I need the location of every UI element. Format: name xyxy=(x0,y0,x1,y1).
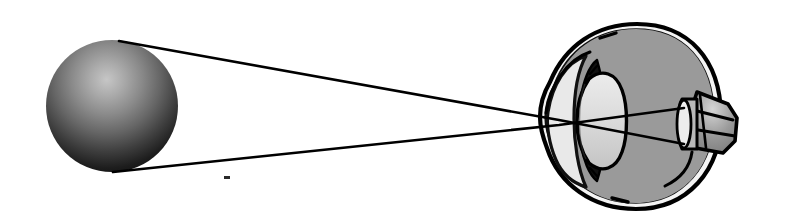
scan-speck xyxy=(224,176,230,179)
figure-canvas xyxy=(0,0,787,224)
sphere-body xyxy=(46,40,178,172)
eye-diagram xyxy=(540,24,737,210)
optic-disc xyxy=(677,99,697,149)
object-sphere xyxy=(46,40,178,172)
eye-optics-figure: A shaded spherical object at left emits … xyxy=(0,0,787,224)
